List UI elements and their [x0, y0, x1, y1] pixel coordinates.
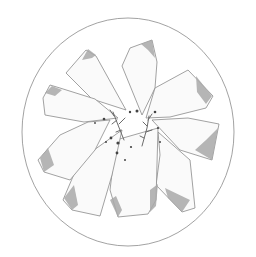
sketch-canvas: Pencil sketch of a round plate with slic… [0, 0, 256, 257]
slices [38, 40, 219, 217]
plate-sketch [0, 0, 256, 257]
